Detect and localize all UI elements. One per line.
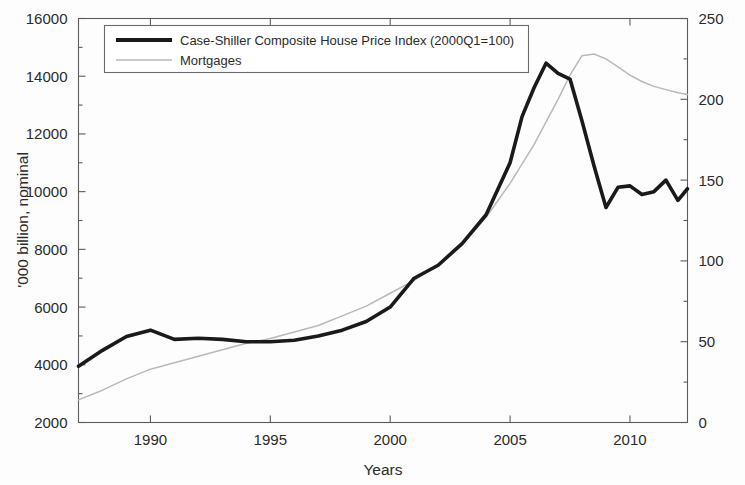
y-tick-label-left: 8000 [34,241,67,258]
y-tick-label-right: 200 [699,91,724,108]
y-tick-label-left: 2000 [34,414,67,431]
y-tick-label-left: 4000 [34,356,67,373]
y-tick-label-left: 12000 [26,125,68,142]
x-axis-title: Years [363,461,402,478]
y-tick-label-left: 16000 [26,10,68,27]
y-tick-label-right: 150 [699,172,724,189]
x-tick-label: 2005 [493,431,526,448]
chart-figure: 200040006000800010000120001400016000 050… [0,0,745,485]
y-tick-label-right: 250 [699,10,724,27]
y-tick-label-left: 6000 [34,299,67,316]
y-tick-label-right: 0 [699,414,707,431]
chart-legend: Case-Shiller Composite House Price Index… [105,26,529,73]
y-tick-label-right: 50 [699,333,716,350]
y-axis-title: '000 billion, nominal [14,152,31,288]
y-tick-label-left: 14000 [26,68,68,85]
x-tick-label: 2010 [613,431,646,448]
y-tick-label-left: 10000 [26,183,68,200]
y-tick-label-right: 100 [699,252,724,269]
line-chart: 200040006000800010000120001400016000 050… [0,0,745,485]
x-tick-label: 2000 [374,431,407,448]
legend-label-case-shiller: Case-Shiller Composite House Price Index… [180,33,514,48]
x-tick-label: 1995 [254,431,287,448]
legend-label-mortgages: Mortgages [180,53,242,68]
x-tick-label: 1990 [134,431,167,448]
